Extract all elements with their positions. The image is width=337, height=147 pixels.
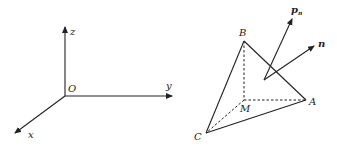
vector-p-label: pn — [291, 4, 302, 16]
edge-CA — [206, 100, 306, 133]
tetrahedron: B A C M n pn — [194, 4, 325, 142]
origin-label: O — [68, 83, 76, 94]
vertex-A-label: A — [308, 96, 316, 107]
z-label: z — [69, 26, 76, 37]
vertex-B-label: B — [238, 27, 246, 38]
edge-MC-hidden — [206, 100, 244, 133]
vertex-M-label: M — [239, 103, 251, 114]
y-label: y — [165, 80, 172, 91]
vertex-C-label: C — [194, 131, 202, 142]
edge-BA — [244, 41, 306, 100]
edge-BC — [206, 41, 244, 133]
x-label: x — [28, 129, 34, 140]
vector-n-label: n — [318, 38, 325, 49]
diagram-canvas: z y x O B A C M n pn — [0, 0, 337, 147]
x-axis — [15, 96, 65, 133]
coordinate-axes: z y x O — [15, 26, 172, 140]
